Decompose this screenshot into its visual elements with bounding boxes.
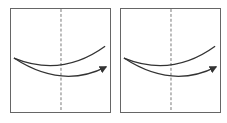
- upper-curve: [124, 46, 215, 65]
- right-trajectory-diagram: [121, 9, 220, 112]
- left-trajectory-diagram: [11, 9, 110, 112]
- lower-curve-arrow: [14, 58, 106, 76]
- right-panel: [120, 8, 221, 113]
- left-panel: [10, 8, 111, 113]
- lower-curve-arrow: [124, 58, 216, 76]
- upper-curve: [14, 46, 105, 65]
